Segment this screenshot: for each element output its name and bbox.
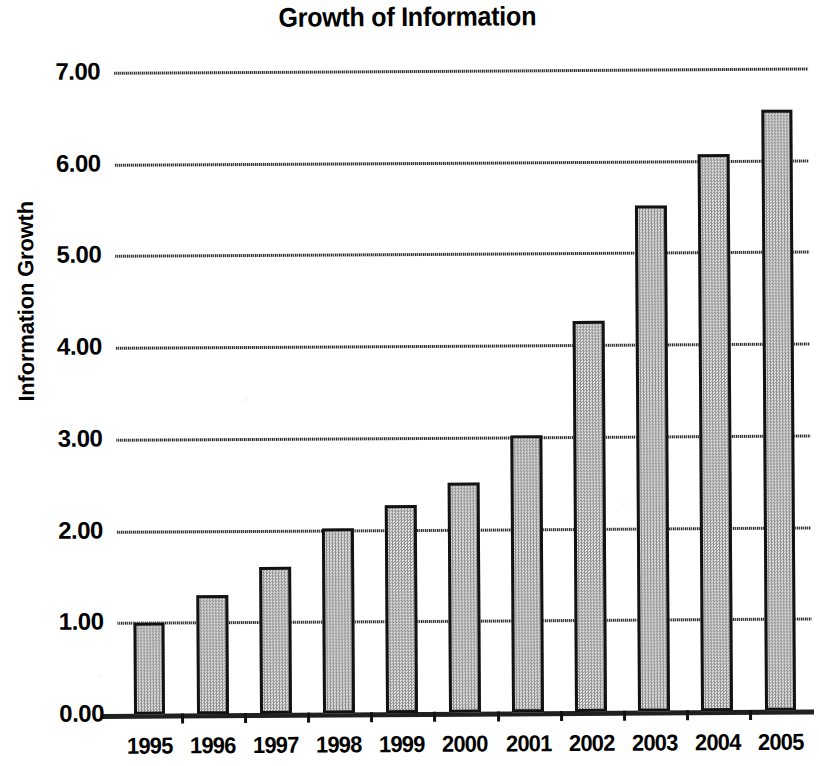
- bar-slot: [382, 71, 418, 713]
- x-axis-tick-label-2001: 2001: [498, 730, 558, 757]
- x-axis-tick-label-2002: 2002: [561, 730, 621, 757]
- bar-slot: [698, 69, 734, 711]
- y-axis-tick-label: 6.00: [56, 149, 101, 177]
- plot-area: 0.001.002.003.004.005.006.007.00: [114, 69, 812, 715]
- bar-2004[interactable]: [698, 154, 733, 711]
- x-axis-tick: [749, 710, 752, 720]
- x-axis-tick: [181, 713, 184, 723]
- x-axis-tick-label-1996: 1996: [183, 732, 243, 759]
- bar-slot: [445, 71, 481, 713]
- bar-2002[interactable]: [573, 321, 607, 712]
- y-axis-tick-label: 7.00: [55, 57, 100, 85]
- x-axis-tick: [497, 711, 500, 721]
- x-axis-tick: [560, 711, 563, 721]
- x-axis-tick-label-1999: 1999: [372, 731, 432, 758]
- x-axis-tick-label-1998: 1998: [309, 731, 369, 758]
- x-axis-tick-label-1997: 1997: [246, 732, 306, 759]
- x-axis-tick-label-2003: 2003: [624, 729, 684, 756]
- bar-slot: [634, 69, 670, 711]
- bar-1997[interactable]: [259, 567, 292, 714]
- bar-slot: [256, 72, 292, 714]
- y-axis-title: Information Growth: [13, 166, 41, 436]
- bar-slot: [130, 73, 166, 715]
- y-axis-tick-label: 4.00: [57, 333, 102, 361]
- x-axis-tick: [244, 713, 247, 723]
- bar-slot: [508, 70, 544, 712]
- bar-1996[interactable]: [196, 595, 229, 714]
- x-axis-tick: [370, 712, 373, 722]
- x-axis-tick-label-2004: 2004: [688, 729, 748, 756]
- x-axis-tick-label-2005: 2005: [751, 729, 811, 756]
- chart-canvas: Growth of Information Information Growth…: [0, 0, 819, 766]
- y-axis-tick-label: 0.00: [59, 699, 104, 727]
- bar-2005[interactable]: [761, 110, 797, 711]
- bar-1995[interactable]: [133, 623, 165, 715]
- x-axis-tick-labels: 1995199619971998199920002001200220032004…: [118, 729, 812, 766]
- y-axis-tick-label: 2.00: [58, 516, 103, 544]
- bar-slot: [319, 71, 355, 713]
- x-axis-tick-label-2000: 2000: [435, 730, 495, 757]
- x-axis-tick: [623, 711, 626, 721]
- bar-2000[interactable]: [448, 482, 481, 712]
- y-axis-tick-label: 5.00: [56, 241, 101, 269]
- bar-2003[interactable]: [635, 205, 670, 711]
- x-axis-tick: [433, 712, 436, 722]
- bar-slot: [571, 70, 607, 712]
- bar-1999[interactable]: [385, 505, 418, 713]
- bar-slot: [761, 69, 797, 711]
- bar-2001[interactable]: [510, 435, 544, 712]
- y-axis-tick-label: 3.00: [58, 424, 103, 452]
- x-axis-tick: [686, 710, 689, 720]
- bar-1998[interactable]: [322, 528, 355, 713]
- bar-slot: [193, 72, 229, 714]
- x-axis-tick-label-1995: 1995: [120, 732, 180, 759]
- x-axis-tick: [307, 713, 310, 723]
- bar-series: [114, 69, 812, 715]
- chart-title: Growth of Information: [26, 0, 788, 35]
- y-axis-tick-label: 1.00: [59, 608, 104, 636]
